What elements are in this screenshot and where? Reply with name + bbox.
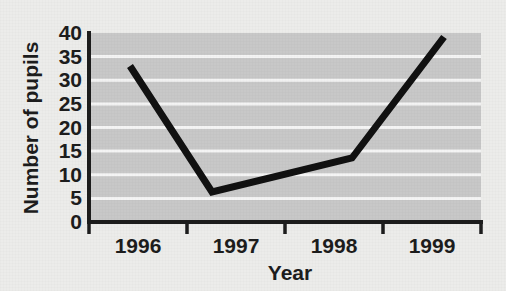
line-chart: 0 5 10 15 20 25 30 35 40 1996 1997 1998 …	[0, 0, 506, 291]
x-axis-tick-labels: 1996 1997 1998 1999	[115, 234, 456, 257]
y-axis-tick-labels: 0 5 10 15 20 25 30 35 40	[59, 21, 83, 233]
y-tick-label-5: 5	[70, 186, 82, 209]
y-tick-label-15: 15	[59, 139, 83, 162]
y-tick-label-30: 30	[59, 68, 82, 91]
y-axis-title: Number of pupils	[19, 42, 42, 215]
y-tick-label-10: 10	[59, 163, 82, 186]
y-tick-label-40: 40	[59, 21, 82, 44]
y-tick-label-20: 20	[59, 116, 82, 139]
y-tick-label-35: 35	[59, 45, 83, 68]
x-tick-label-1999: 1999	[409, 234, 456, 257]
y-tick-label-0: 0	[70, 210, 82, 233]
y-tick-label-25: 25	[59, 92, 83, 115]
x-tick-label-1996: 1996	[115, 234, 162, 257]
x-axis-title: Year	[268, 261, 312, 284]
x-tick-label-1997: 1997	[213, 234, 260, 257]
chart-canvas: 0 5 10 15 20 25 30 35 40 1996 1997 1998 …	[0, 0, 506, 291]
x-tick-label-1998: 1998	[311, 234, 358, 257]
